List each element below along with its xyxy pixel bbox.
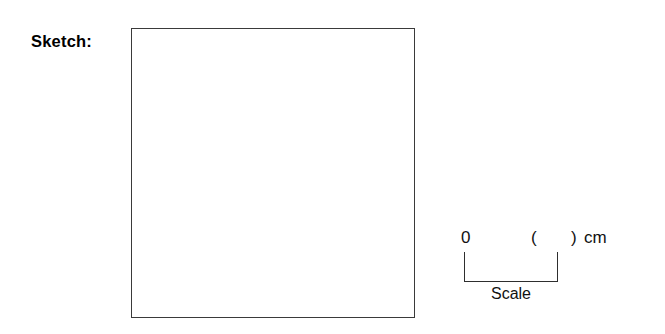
- sketch-prompt-label: Sketch:: [31, 31, 92, 51]
- sketch-drawing-area[interactable]: [131, 28, 415, 318]
- scale-legend: 0 ( ) cm Scale: [455, 226, 635, 308]
- scale-caption: Scale: [455, 284, 567, 304]
- worksheet-page: Sketch: 0 ( ) cm Scale: [0, 0, 665, 334]
- scale-bracket-left-tick: [464, 252, 465, 282]
- scale-close-paren: ): [571, 226, 577, 250]
- scale-zero-label: 0: [461, 226, 470, 250]
- scale-bracket-icon: [464, 252, 558, 282]
- scale-bracket-right-tick: [557, 252, 558, 282]
- scale-open-paren: (: [531, 226, 537, 250]
- scale-units-row: 0 ( ) cm: [455, 226, 635, 250]
- scale-unit-label: cm: [584, 226, 607, 250]
- scale-bracket-bar: [464, 281, 558, 282]
